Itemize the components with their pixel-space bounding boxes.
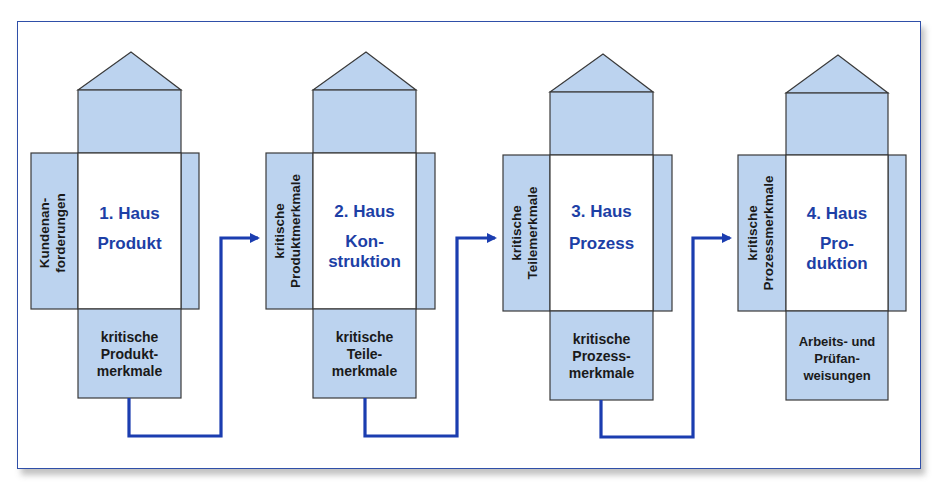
- house-4-matrix: [786, 155, 888, 311]
- house-1-input-label: Kundenan- forderungen: [37, 155, 71, 311]
- house-3-roof: [550, 54, 653, 92]
- house-3-output-label: kritische Prozess- merkmale: [550, 331, 653, 382]
- house-3-right-wing: [653, 155, 672, 311]
- house-1-matrix: [78, 153, 181, 309]
- house-1-title: 1. Haus: [78, 204, 181, 224]
- house-3-subtitle: Prozess: [550, 234, 653, 254]
- house-1-roof: [78, 52, 181, 90]
- house-2-output-label: kritische Teile- merkmale: [313, 329, 416, 380]
- house-1-output-label: kritische Produkt- merkmale: [78, 329, 181, 380]
- house-1-right-wing: [181, 153, 199, 309]
- house-3-input-label: kritische Teilemerkmale: [509, 155, 543, 311]
- house-2-matrix: [313, 153, 416, 309]
- house-4-title: 4. Haus: [786, 204, 888, 224]
- house-1-correlation-box: [78, 90, 181, 153]
- house-3-correlation-box: [550, 92, 653, 155]
- house-4-correlation-box: [786, 93, 888, 155]
- house-4-input-label: kritische Prozessmerkmale: [745, 155, 779, 311]
- house-2-input-label: kritische Produktmerkmale: [272, 153, 306, 309]
- house-4-right-wing: [888, 155, 906, 311]
- house-2-subtitle: Kon- struktion: [313, 232, 416, 272]
- house-4-output-label: Arbeits- und Prüfan- weisungen: [778, 333, 896, 384]
- house-2-title: 2. Haus: [313, 202, 416, 222]
- house-4-roof: [786, 55, 888, 93]
- house-4-subtitle: Pro- duktion: [786, 234, 888, 274]
- house-3-title: 3. Haus: [550, 202, 653, 222]
- house-2-correlation-box: [313, 90, 416, 153]
- house-1-subtitle: Produkt: [78, 234, 181, 254]
- house-3-matrix: [550, 155, 653, 311]
- house-2-roof: [313, 52, 416, 90]
- house-2-right-wing: [416, 153, 435, 309]
